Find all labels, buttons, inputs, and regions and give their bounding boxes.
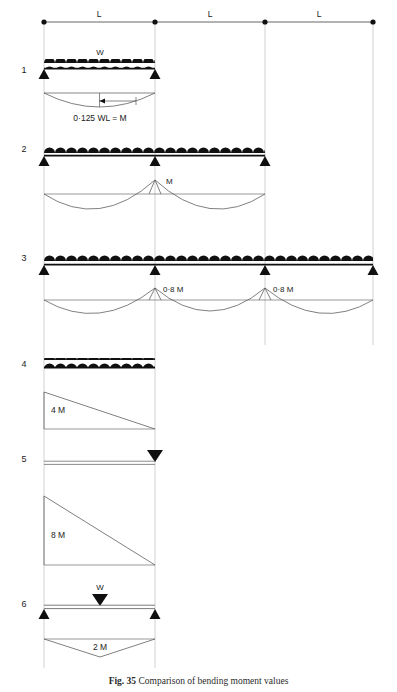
- support-triangle: [39, 156, 50, 166]
- case-1: 1 W 0·125 WL = M: [21, 48, 160, 123]
- span-label-1: L: [97, 9, 102, 19]
- load-label-w-1: W: [96, 48, 104, 57]
- case-6: 6 W 2 M: [21, 583, 160, 657]
- dimension-node: [262, 19, 267, 24]
- case-4: 4 4 M: [21, 358, 155, 429]
- point-load-arrow-icon: [92, 594, 108, 606]
- span-label-3: L: [317, 9, 322, 19]
- point-load-arrow-icon: [147, 450, 163, 462]
- dimension-node: [370, 19, 375, 24]
- case-number-4: 4: [21, 359, 26, 369]
- moment-label-3b: 0·8 M: [273, 285, 294, 294]
- figure-caption-text: Comparison of bending moment values: [138, 676, 288, 686]
- span-label-2: L: [208, 9, 213, 19]
- case-3: 3 0·8 M 0·8 M: [21, 253, 378, 313]
- case-number-1: 1: [21, 65, 26, 75]
- support-triangle: [368, 265, 379, 275]
- support-triangle: [150, 609, 161, 619]
- arrow-head-icon: [100, 99, 106, 104]
- udl-load-2: [44, 146, 265, 155]
- case-number-5: 5: [21, 454, 26, 464]
- support-triangle: [39, 69, 50, 79]
- support-triangle: [150, 265, 161, 275]
- case-number-3: 3: [21, 253, 26, 263]
- moment-label-6: 2 M: [93, 642, 107, 652]
- case-5: 5 8 M: [21, 450, 163, 565]
- load-label-w-6: W: [96, 583, 104, 592]
- span-dimension-line: L L L: [41, 9, 375, 25]
- support-triangle: [260, 265, 271, 275]
- moment-label-4: 4 M: [51, 405, 65, 415]
- support-triangle: [150, 156, 161, 166]
- udl-load-4: [44, 358, 155, 367]
- case-number-2: 2: [21, 144, 26, 154]
- support-triangle: [39, 265, 50, 275]
- support-triangle: [39, 609, 50, 619]
- figure-bending-moment-comparison: L L L 1 W 0·125 WL = M 2: [0, 0, 397, 692]
- support-triangle: [260, 156, 271, 166]
- moment-label-5: 8 M: [51, 530, 65, 540]
- support-triangle: [150, 69, 161, 79]
- bmd-sag-curve-2a: [44, 180, 155, 209]
- dimension-node: [152, 19, 157, 24]
- udl-load-3: [44, 255, 373, 264]
- figure-caption: Fig. 35 Comparison of bending moment val…: [0, 676, 397, 686]
- figure-caption-label: Fig. 35: [109, 676, 136, 686]
- moment-label-3a: 0·8 M: [163, 285, 184, 294]
- dimension-node: [41, 19, 46, 24]
- udl-load-1: [44, 59, 155, 68]
- moment-label-1: 0·125 WL = M: [73, 113, 126, 123]
- bmd-sag-curve-3a: [44, 288, 155, 313]
- moment-label-2: M: [166, 177, 173, 186]
- case-2: 2 M: [21, 144, 270, 209]
- diagram-svg: L L L 1 W 0·125 WL = M 2: [0, 0, 397, 692]
- case-number-6: 6: [21, 599, 26, 609]
